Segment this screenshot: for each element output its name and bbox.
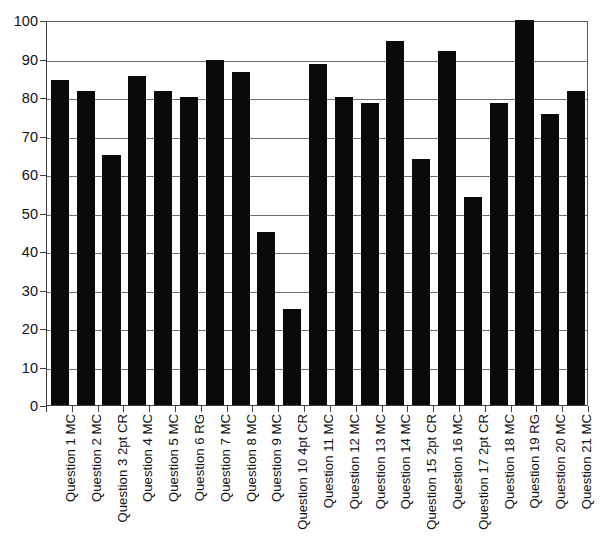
x-tick-mark <box>252 406 253 412</box>
x-tick-label-text: Question 18 MC <box>503 414 516 509</box>
x-tick-label-text: Question 17 2pt CR <box>477 414 490 530</box>
x-tick-label: Question 16 MC <box>451 414 464 509</box>
x-tick-label: Question 4 MC <box>141 414 154 502</box>
x-tick-mark <box>175 406 176 412</box>
x-tick-label: Question 3 2pt CR <box>116 414 129 523</box>
x-tick-label-text: Question 7 MC <box>219 414 232 502</box>
x-tick-mark <box>382 406 383 412</box>
bar <box>386 41 404 405</box>
y-tick-label: 70 <box>0 129 38 144</box>
x-tick-mark <box>433 406 434 412</box>
x-tick-mark <box>304 406 305 412</box>
x-tick-label: Question 15 2pt CR <box>425 414 438 530</box>
x-tick-label-text: Question 10 4pt CR <box>296 414 309 530</box>
x-tick-mark <box>201 406 202 412</box>
bar <box>515 20 533 405</box>
x-tick-mark <box>459 406 460 412</box>
bar <box>51 80 69 405</box>
y-tick-label: 90 <box>0 52 38 67</box>
bar-chart: 0102030405060708090100 Question 1 MCQues… <box>0 0 601 550</box>
bar <box>541 114 559 405</box>
y-tick-label: 0 <box>0 399 38 414</box>
x-tick-label-text: Question 2 MC <box>90 414 103 502</box>
x-tick-label: Question 10 4pt CR <box>296 414 309 530</box>
x-tick-mark <box>46 406 47 412</box>
x-tick-label-text: Question 20 MC <box>554 414 567 509</box>
bar <box>283 309 301 405</box>
x-tick-mark <box>227 406 228 412</box>
x-tick-label-text: Question 14 MC <box>399 414 412 509</box>
x-tick-label-text: Question 5 MC <box>167 414 180 502</box>
x-tick-mark <box>123 406 124 412</box>
x-tick-label-text: Question 1 MC <box>64 414 77 502</box>
y-tick-label: 80 <box>0 91 38 106</box>
y-tick-label: 30 <box>0 283 38 298</box>
x-tick-label: Question 9 MC <box>270 414 283 502</box>
bar <box>180 97 198 405</box>
bar <box>128 76 146 405</box>
x-tick-label: Question 21 MC <box>580 414 593 509</box>
bar <box>309 64 327 405</box>
y-tick-label: 50 <box>0 206 38 221</box>
bar <box>464 197 482 405</box>
x-tick-mark <box>511 406 512 412</box>
x-tick-mark <box>278 406 279 412</box>
x-tick-label-text: Question 9 MC <box>270 414 283 502</box>
bar <box>102 155 120 405</box>
x-tick-mark <box>485 406 486 412</box>
x-tick-label-text: Question 4 MC <box>141 414 154 502</box>
x-tick-label: Question 6 RG <box>193 414 206 501</box>
x-tick-mark <box>536 406 537 412</box>
y-tick-label: 10 <box>0 360 38 375</box>
bar <box>154 91 172 405</box>
x-tick-label: Question 20 MC <box>554 414 567 509</box>
x-tick-mark <box>562 406 563 412</box>
x-tick-mark <box>72 406 73 412</box>
x-tick-label: Question 14 MC <box>399 414 412 509</box>
x-tick-label: Question 18 MC <box>503 414 516 509</box>
x-tick-label-text: Question 15 2pt CR <box>425 414 438 530</box>
bar <box>206 60 224 405</box>
x-tick-label: Question 19 RG <box>528 414 541 509</box>
y-tick-label: 60 <box>0 168 38 183</box>
bar <box>438 51 456 405</box>
y-tick-label: 100 <box>0 14 38 29</box>
bar <box>567 91 585 405</box>
gridline <box>47 61 587 62</box>
x-tick-mark <box>330 406 331 412</box>
bar <box>361 103 379 405</box>
y-tick-label: 20 <box>0 322 38 337</box>
x-tick-label: Question 12 MC <box>348 414 361 509</box>
bar <box>77 91 95 405</box>
x-tick-mark <box>588 406 589 412</box>
x-tick-label-text: Question 19 RG <box>528 414 541 509</box>
x-tick-label-text: Question 8 MC <box>245 414 258 502</box>
x-tick-label: Question 2 MC <box>90 414 103 502</box>
x-tick-label-text: Question 12 MC <box>348 414 361 509</box>
x-tick-label-text: Question 11 MC <box>322 414 335 508</box>
x-tick-label-text: Question 16 MC <box>451 414 464 509</box>
x-tick-label-text: Question 21 MC <box>580 414 593 509</box>
bar <box>335 97 353 405</box>
bar <box>412 159 430 405</box>
bar <box>490 103 508 405</box>
x-tick-label: Question 5 MC <box>167 414 180 502</box>
x-tick-label: Question 1 MC <box>64 414 77 502</box>
x-tick-label-text: Question 3 2pt CR <box>116 414 129 523</box>
y-tick-label: 40 <box>0 245 38 260</box>
x-tick-label: Question 11 MC <box>322 414 335 508</box>
x-tick-label-text: Question 6 RG <box>193 414 206 501</box>
x-tick-mark <box>149 406 150 412</box>
x-tick-label: Question 17 2pt CR <box>477 414 490 530</box>
plot-area <box>46 21 588 406</box>
x-tick-label-text: Question 13 MC <box>374 414 387 509</box>
x-tick-label: Question 13 MC <box>374 414 387 509</box>
x-tick-label: Question 8 MC <box>245 414 258 502</box>
x-tick-mark <box>98 406 99 412</box>
bar <box>257 232 275 405</box>
x-tick-label: Question 7 MC <box>219 414 232 502</box>
bar <box>232 72 250 405</box>
x-tick-mark <box>407 406 408 412</box>
x-tick-mark <box>356 406 357 412</box>
